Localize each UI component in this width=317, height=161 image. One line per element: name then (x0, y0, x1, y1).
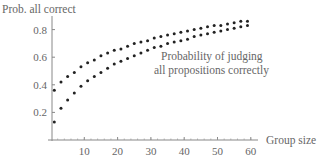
data-point-upper (166, 34, 169, 37)
x-tick-label: 20 (112, 145, 124, 157)
data-point-lower (193, 35, 196, 38)
data-point-upper (213, 24, 216, 27)
y-tick-label: 0.8 (33, 24, 47, 36)
annotation-line-1: Probability of judging (161, 50, 263, 63)
data-point-lower (93, 75, 96, 78)
data-point-upper (66, 75, 69, 78)
data-point-upper (146, 39, 149, 42)
data-point-lower (139, 52, 142, 55)
y-axis-label: Prob. all correct (2, 3, 77, 15)
data-point-upper (193, 28, 196, 31)
data-point-upper (219, 24, 222, 27)
x-tick-label: 10 (79, 145, 91, 157)
y-tick-label: 0.6 (33, 51, 47, 63)
data-point-lower (66, 98, 69, 101)
data-point-lower (233, 27, 236, 30)
data-point-lower (146, 49, 149, 52)
data-point-upper (239, 20, 242, 23)
data-point-lower (119, 60, 122, 63)
data-point-upper (139, 41, 142, 44)
data-point-lower (179, 39, 182, 42)
annotation-line-2: all propositions correctly (154, 64, 269, 77)
data-point-lower (59, 107, 62, 110)
data-point-upper (126, 45, 129, 48)
data-point-lower (86, 79, 89, 82)
data-point-lower (126, 57, 129, 60)
data-point-upper (59, 81, 62, 84)
data-point-lower (99, 71, 102, 74)
data-point-lower (239, 25, 242, 28)
y-tick-label: 0.4 (33, 79, 47, 91)
data-point-upper (173, 32, 176, 35)
data-point-lower (219, 29, 222, 32)
data-point-upper (53, 89, 56, 92)
data-point-upper (99, 54, 102, 57)
data-point-lower (213, 31, 216, 34)
x-tick-label: 40 (179, 145, 191, 157)
data-point-upper (206, 25, 209, 28)
data-point-upper (153, 36, 156, 39)
data-point-upper (246, 20, 249, 23)
data-point-upper (113, 49, 116, 52)
data-point-upper (119, 47, 122, 50)
data-point-upper (133, 42, 136, 45)
scatter-chart: Prob. all correct 0.20.40.60.8 102030405… (0, 0, 317, 161)
data-point-upper (159, 35, 162, 38)
data-point-lower (133, 54, 136, 57)
data-point-lower (199, 34, 202, 37)
data-point-lower (206, 32, 209, 35)
data-point-upper (233, 21, 236, 24)
data-point-upper (93, 58, 96, 61)
data-point-lower (53, 121, 56, 124)
data-point-lower (73, 92, 76, 95)
x-tick-label: 30 (145, 145, 157, 157)
data-point-lower (79, 85, 82, 88)
data-point-lower (153, 46, 156, 49)
data-point-upper (106, 52, 109, 55)
data-point-upper (73, 71, 76, 74)
data-point-lower (166, 42, 169, 45)
data-point-lower (186, 38, 189, 41)
data-point-lower (106, 67, 109, 70)
data-point-upper (179, 31, 182, 34)
data-point-lower (246, 24, 249, 27)
data-point-lower (173, 41, 176, 44)
y-tick-label: 0.2 (33, 106, 47, 118)
data-point-upper (199, 27, 202, 30)
data-point-lower (113, 63, 116, 66)
x-tick-label: 50 (212, 145, 224, 157)
data-point-lower (159, 45, 162, 48)
data-point-upper (86, 61, 89, 64)
x-axis-label: Group size (266, 134, 316, 147)
data-point-lower (226, 28, 229, 31)
x-tick-label: 60 (245, 145, 257, 157)
data-point-upper (226, 23, 229, 26)
data-point-upper (79, 65, 82, 68)
data-point-upper (186, 29, 189, 32)
